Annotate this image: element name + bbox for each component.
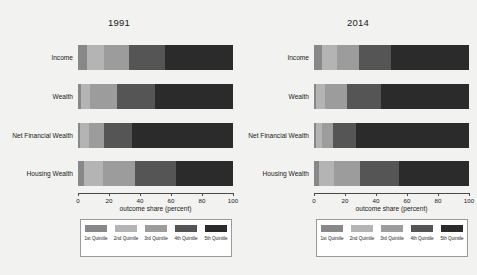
category-label: Net Financial Wealth	[12, 123, 78, 148]
legend-swatch-row	[81, 225, 231, 232]
bar-segment[interactable]	[356, 123, 469, 148]
legend-swatch[interactable]	[411, 225, 433, 232]
bar-segment[interactable]	[155, 84, 233, 109]
bar-segment[interactable]	[103, 161, 136, 186]
x-axis-tick-label: 0	[76, 197, 79, 204]
x-axis-tick-label: 60	[404, 197, 411, 204]
bar-segment[interactable]	[165, 45, 233, 70]
bar-row: Wealth	[314, 77, 469, 116]
legend-swatch[interactable]	[205, 225, 227, 232]
bar-segment[interactable]	[359, 45, 392, 70]
stacked-bar[interactable]	[314, 161, 469, 186]
bar-segment[interactable]	[360, 161, 399, 186]
bar-segment[interactable]	[84, 161, 103, 186]
x-axis-title: outcome share (percent)	[78, 205, 233, 212]
bar-segment[interactable]	[176, 161, 233, 186]
bar-segment[interactable]	[325, 84, 347, 109]
bar-segment[interactable]	[314, 45, 322, 70]
category-label: Housing Wealth	[263, 161, 314, 186]
x-axis-tick	[233, 193, 234, 196]
bar-segment[interactable]	[89, 123, 105, 148]
plot-area: Income Wealth Net Financial Wealth Housi…	[78, 38, 233, 193]
stacked-bar[interactable]	[78, 123, 233, 148]
legend-label: 1st Quintile	[318, 236, 346, 241]
x-axis-title: outcome share (percent)	[314, 205, 469, 212]
bar-segment[interactable]	[322, 123, 333, 148]
x-axis-tick-label: 100	[464, 197, 474, 204]
category-label: Net Financial Wealth	[248, 123, 314, 148]
bar-segment[interactable]	[80, 123, 89, 148]
x-axis-tick-label: 80	[199, 197, 206, 204]
legend-label: 3rd Quintile	[378, 236, 406, 241]
x-axis-tick-label: 20	[342, 197, 349, 204]
bar-segment[interactable]	[333, 123, 356, 148]
legend-label: 4th Quintile	[408, 236, 436, 241]
bar-segment[interactable]	[316, 84, 325, 109]
x-axis-tick-label: 100	[228, 197, 238, 204]
legend-swatch[interactable]	[145, 225, 167, 232]
bar-segment[interactable]	[81, 84, 90, 109]
stacked-bar[interactable]	[78, 45, 233, 70]
legend-box: 1st Quintile2nd Quintile3rd Quintile4th …	[316, 219, 468, 257]
legend-label: 1st Quintile	[82, 236, 110, 241]
legend-label: 2nd Quintile	[112, 236, 140, 241]
bar-row: Wealth	[78, 77, 233, 116]
bar-segment[interactable]	[87, 45, 104, 70]
legend-swatch[interactable]	[115, 225, 137, 232]
x-axis-tick	[407, 193, 408, 196]
bar-segment[interactable]	[135, 161, 175, 186]
bar-segment[interactable]	[117, 84, 156, 109]
category-label: Income	[51, 45, 78, 70]
chart-panel-2014: 2014 Income Wealth Net Financial Wealth …	[239, 0, 477, 275]
plot-area: Income Wealth Net Financial Wealth Housi…	[314, 38, 469, 193]
stacked-bar[interactable]	[314, 84, 469, 109]
x-axis-tick	[376, 193, 377, 196]
x-axis-tick-label: 80	[435, 197, 442, 204]
legend-swatch[interactable]	[85, 225, 107, 232]
legend-label: 5th Quintile	[202, 236, 230, 241]
x-axis-tick	[469, 193, 470, 196]
bar-segment[interactable]	[104, 45, 129, 70]
x-axis-tick	[109, 193, 110, 196]
legend-box: 1st Quintile2nd Quintile3rd Quintile4th …	[80, 219, 232, 257]
bar-segment[interactable]	[347, 84, 381, 109]
x-axis-tick	[171, 193, 172, 196]
bar-segment[interactable]	[90, 84, 116, 109]
x-axis-tick-label: 0	[312, 197, 315, 204]
stacked-bar[interactable]	[78, 161, 233, 186]
legend-swatch[interactable]	[351, 225, 373, 232]
legend-label-row: 1st Quintile2nd Quintile3rd Quintile4th …	[317, 236, 467, 241]
legend-label-row: 1st Quintile2nd Quintile3rd Quintile4th …	[81, 236, 231, 241]
figure-canvas: 1991 Income Wealth Net Financial Wealth …	[0, 0, 477, 275]
stacked-bar[interactable]	[78, 84, 233, 109]
legend-swatch[interactable]	[175, 225, 197, 232]
chart-panel-1991: 1991 Income Wealth Net Financial Wealth …	[0, 0, 238, 275]
bar-segment[interactable]	[399, 161, 469, 186]
legend-swatch[interactable]	[441, 225, 463, 232]
stacked-bar[interactable]	[314, 123, 469, 148]
x-axis-tick	[202, 193, 203, 196]
category-label: Wealth	[289, 84, 314, 109]
x-axis-tick	[345, 193, 346, 196]
bar-segment[interactable]	[337, 45, 359, 70]
legend-swatch[interactable]	[381, 225, 403, 232]
x-axis-tick-label: 20	[106, 197, 113, 204]
panel-title: 1991	[0, 17, 238, 28]
bar-row: Income	[78, 38, 233, 77]
legend-swatch[interactable]	[321, 225, 343, 232]
bar-segment[interactable]	[132, 123, 233, 148]
bar-segment[interactable]	[381, 84, 469, 109]
bar-segment[interactable]	[78, 45, 87, 70]
bar-segment[interactable]	[391, 45, 469, 70]
stacked-bar[interactable]	[314, 45, 469, 70]
bar-segment[interactable]	[129, 45, 165, 70]
bar-segment[interactable]	[334, 161, 360, 186]
bar-segment[interactable]	[319, 161, 335, 186]
legend-label: 3rd Quintile	[142, 236, 170, 241]
x-axis-line	[78, 193, 233, 194]
x-axis-tick	[140, 193, 141, 196]
x-axis-tick-label: 40	[137, 197, 144, 204]
bar-segment[interactable]	[322, 45, 338, 70]
legend-label: 2nd Quintile	[348, 236, 376, 241]
bar-segment[interactable]	[104, 123, 132, 148]
